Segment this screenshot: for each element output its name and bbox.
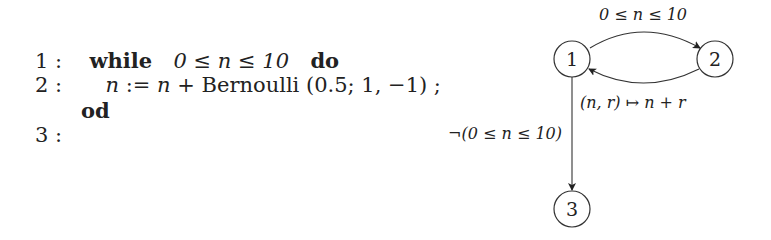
svg-text:3: 3 <box>566 198 578 220</box>
node-2: 2 <box>697 41 733 77</box>
edge-2-to-1 <box>589 69 699 83</box>
edge-label-guard: 0 ≤ n ≤ 10 <box>599 5 687 24</box>
edge-label-update: (n, r) ↦ n + r <box>580 93 687 112</box>
edge-1-to-2 <box>590 32 700 48</box>
control-flow-graph: 1 2 3 0 ≤ n ≤ 10 (n, r) ↦ n + r ¬(0 ≤ n … <box>0 0 771 240</box>
svg-text:2: 2 <box>709 48 721 70</box>
svg-text:1: 1 <box>566 48 578 70</box>
edge-label-exit: ¬(0 ≤ n ≤ 10) <box>448 124 562 143</box>
node-1: 1 <box>554 41 590 77</box>
node-3: 3 <box>554 191 590 227</box>
